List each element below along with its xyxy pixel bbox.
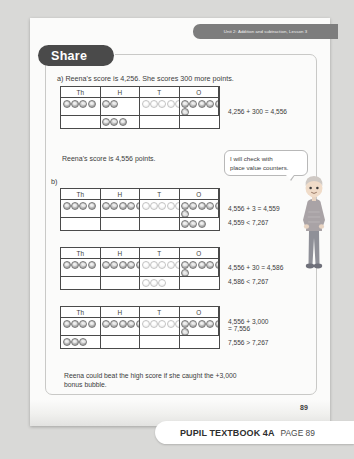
place-value-table: ThHTO (60, 247, 220, 290)
place-value-counter (119, 261, 127, 269)
place-value-counter (206, 261, 214, 269)
place-value-counter (110, 202, 118, 210)
place-value-counter (71, 202, 79, 210)
counter-row (102, 261, 138, 269)
counter-row (181, 100, 217, 108)
table-cell-o (180, 116, 220, 128)
place-value-counter (71, 320, 79, 328)
place-value-table: ThHTO (60, 306, 220, 349)
column-header-t: T (140, 307, 180, 318)
counter-row (142, 202, 178, 210)
equation-line: 4,556 + 3 = 4,559 (228, 205, 280, 212)
place-value-counter (119, 118, 127, 126)
place-value-counter (88, 261, 96, 269)
table-cell-th (61, 98, 101, 116)
place-value-counter (158, 261, 166, 269)
place-value-counter (142, 100, 150, 108)
counter-row (181, 210, 217, 218)
table-cell-h (101, 116, 141, 128)
closing-line-1: Reena could beat the high score if she c… (64, 372, 237, 379)
counter-row (142, 261, 178, 269)
place-value-counter (198, 220, 206, 228)
counter-row (102, 118, 138, 126)
column-header-o: O (180, 189, 220, 200)
table-cell-th (61, 259, 101, 277)
place-value-counter (206, 320, 214, 328)
place-value-table: ThHTO (60, 86, 220, 129)
table-cell-h (101, 200, 141, 218)
column-header-o: O (180, 307, 220, 318)
counter-row (142, 100, 178, 108)
counter-row (63, 100, 99, 108)
table-cell-h (101, 277, 141, 289)
place-value-counter (71, 338, 79, 346)
counter-row (102, 202, 138, 210)
place-value-counter (198, 100, 206, 108)
place-value-counter (110, 320, 118, 328)
part-a-result-sentence: Reena's score is 4,556 points. (62, 155, 156, 162)
column-header-h: H (101, 307, 141, 318)
place-value-counter (110, 118, 118, 126)
place-value-counter (63, 261, 71, 269)
place-value-counter (215, 202, 219, 210)
footer-book-label: PUPIL TEXTBOOK 4A (180, 428, 275, 438)
footer-page-label: PAGE 89 (281, 428, 315, 438)
place-value-counter (189, 100, 197, 108)
character-illustration (296, 168, 334, 276)
counter-row (63, 320, 99, 328)
place-value-counter (206, 202, 214, 210)
footer-pill: PUPIL TEXTBOOK 4A PAGE 89 (155, 421, 354, 444)
place-value-counter (142, 320, 150, 328)
table-cell-o (180, 200, 220, 218)
place-value-counter (71, 100, 79, 108)
table-cell-h (101, 336, 141, 348)
place-value-counter (181, 108, 189, 116)
place-value-counter (158, 100, 166, 108)
place-value-counter (127, 202, 135, 210)
table-cell-h (101, 259, 141, 277)
place-value-counter (181, 220, 189, 228)
counter-row (181, 320, 217, 328)
place-value-counter (150, 279, 158, 287)
place-value-table: ThHTO (60, 188, 220, 231)
table-cell-t (140, 318, 180, 336)
equation-line: = 7,556 (228, 325, 269, 332)
share-section-label: Share (51, 49, 87, 63)
table-cell-th (61, 277, 101, 289)
table-cell-o (180, 277, 220, 289)
equation-line: 4,256 + 300 = 4,556 (228, 108, 287, 115)
counter-row (63, 338, 99, 346)
table-cell-o (180, 98, 220, 116)
place-value-counter (142, 261, 150, 269)
table-cell-o (180, 259, 220, 277)
table-cell-o (180, 218, 220, 230)
table-cell-th (61, 336, 101, 348)
place-value-counter (206, 100, 214, 108)
place-value-counter (158, 202, 166, 210)
column-header-t: T (140, 248, 180, 259)
place-value-counter (79, 320, 87, 328)
place-value-counter (110, 261, 118, 269)
counter-row (181, 108, 217, 116)
place-value-counter (167, 202, 175, 210)
unit-banner-label: Unit 2: Addition and subtraction, Lesson… (224, 29, 308, 34)
place-value-counter (150, 100, 158, 108)
place-value-counter (88, 100, 96, 108)
table-cell-t (140, 336, 180, 348)
place-value-counter (198, 261, 206, 269)
place-value-counter (127, 261, 135, 269)
place-value-counter (215, 320, 219, 328)
place-value-counter (71, 261, 79, 269)
column-header-h: H (101, 87, 141, 98)
page-number: 89 (300, 404, 308, 411)
place-value-counter (167, 320, 175, 328)
place-value-counter (181, 210, 189, 218)
place-value-counter (198, 202, 206, 210)
place-value-counter (215, 100, 219, 108)
place-value-counter (181, 320, 189, 328)
unit-banner: Unit 2: Addition and subtraction, Lesson… (193, 24, 338, 39)
place-value-counter (150, 261, 158, 269)
counter-row (181, 261, 217, 269)
place-value-counter (167, 100, 175, 108)
place-value-counter (150, 320, 158, 328)
